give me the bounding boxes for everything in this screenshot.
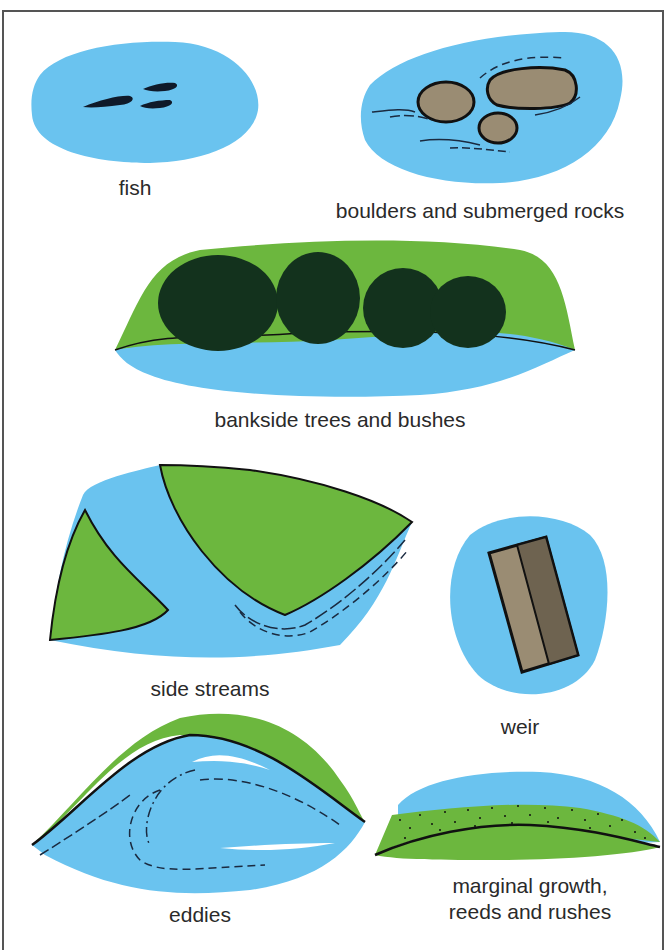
boulder-icon [479,113,517,143]
label-eddies: eddies [140,902,260,928]
label-trees: bankside trees and bushes [160,407,520,433]
label-boulders: boulders and submerged rocks [310,198,650,224]
label-weir: weir [480,714,560,740]
side-streams-panel [50,465,412,658]
fish-panel [31,42,258,163]
label-side-streams: side streams [120,676,300,702]
marginal-panel [375,772,660,860]
label-marginal-line1: marginal growth, [410,873,650,899]
boulders-panel [361,32,623,183]
boulder-icon [418,82,474,122]
trees-panel [115,241,575,397]
label-marginal-line2: reeds and rushes [410,899,650,925]
label-fish: fish [95,175,175,201]
eddies-panel [32,714,365,893]
weir-panel [450,516,607,694]
boulder-icon [487,68,576,109]
